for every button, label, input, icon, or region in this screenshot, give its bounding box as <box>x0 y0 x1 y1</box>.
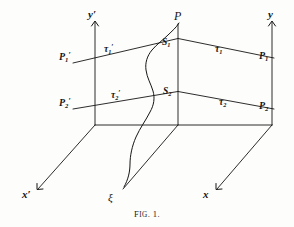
x-prime-axis-label: x′ <box>22 189 31 200</box>
diagram-canvas <box>0 0 294 227</box>
tau2-prime-mark: ′ <box>118 89 120 98</box>
point-P1-prime-mark: ′ <box>68 51 70 60</box>
tau2-subscript: 2 <box>223 101 226 108</box>
point-P1-subscript: 1 <box>265 55 268 62</box>
tau1-prime-label: τ1′ <box>104 44 114 55</box>
figure-caption: FIG. 1. <box>0 209 294 219</box>
x-axis-line <box>217 125 272 189</box>
point-S1-label: S1 <box>162 38 170 48</box>
point-P1-label: P1 <box>259 51 268 62</box>
point-S1-subscript: 1 <box>167 41 170 48</box>
tau1-subscript: 1 <box>219 48 222 55</box>
tau1-prime-mark: ′ <box>111 43 113 52</box>
point-P2-label: P2 <box>259 101 268 112</box>
x-prime-axis-line <box>38 125 95 189</box>
y-prime-axis-label: y′ <box>88 9 96 20</box>
point-P2-subscript: 2 <box>265 105 268 112</box>
xi-base-line <box>123 125 178 189</box>
y-axis-label: y <box>268 9 273 20</box>
point-S2-label: S2 <box>163 87 171 97</box>
x-axis-label: x <box>203 189 209 200</box>
tau2-prime-label: τ2′ <box>111 90 121 101</box>
xi-curve <box>124 23 179 187</box>
xi-curve-label: ξ <box>108 192 113 203</box>
tau2-label: τ2 <box>219 98 226 108</box>
point-P-label: P <box>174 10 181 22</box>
point-P1-prime-label: P1′ <box>59 52 71 64</box>
point-S2-subscript: 2 <box>168 90 171 97</box>
point-P2-prime-mark: ′ <box>68 97 70 106</box>
caption-smallcaps: IG <box>139 211 148 219</box>
caption-number: . 1. <box>148 209 160 219</box>
point-P2-prime-label: P2′ <box>59 98 71 110</box>
tau1-label: τ1 <box>215 45 222 55</box>
figure-container: y′ y x′ x P ξ P1′ P2′ P1 P2 τ1′ τ2′ τ1 τ… <box>0 0 294 227</box>
